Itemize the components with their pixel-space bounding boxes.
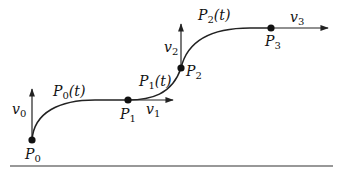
point-p2 [177,64,184,71]
label-segment-p1t: P1(t) [138,73,171,91]
label-segment-p0t: P0(t) [52,83,85,101]
segment-p0-curve [32,100,128,140]
label-p2: P2 [185,63,202,81]
point-p0 [28,136,35,143]
segment-p2-curve [181,28,271,68]
label-v1: v1 [146,101,160,119]
curve-diagram: P0 P1 P2 P3 v0 v1 v2 v3 P0(t) P1(t) P2(t… [0,0,340,170]
point-p3 [267,24,274,31]
diagram-canvas: P0 P1 P2 P3 v0 v1 v2 v3 P0(t) P1(t) P2(t… [0,0,340,170]
label-v2: v2 [164,39,178,57]
label-p0: P0 [24,146,41,164]
label-v3: v3 [290,9,304,27]
label-p1: P1 [119,106,136,124]
label-p3: P3 [264,33,281,51]
label-segment-p2t: P2(t) [197,7,230,25]
label-v0: v0 [12,101,26,119]
point-p1 [124,96,131,103]
